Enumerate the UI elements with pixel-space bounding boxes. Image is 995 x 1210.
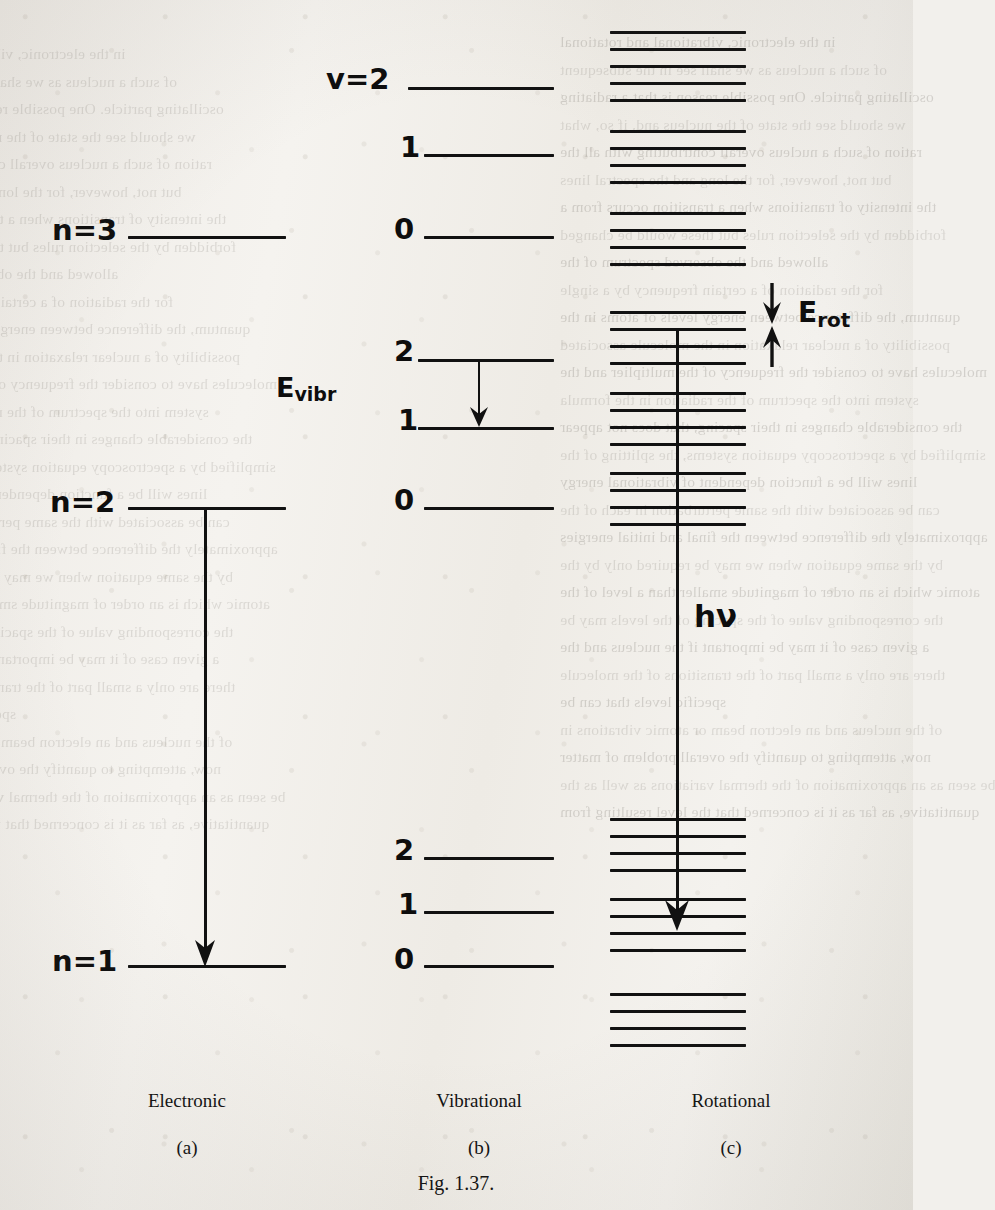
column-caption-rotational: Rotational (636, 1090, 826, 1112)
electronic-transition-arrowhead (192, 938, 218, 968)
vibrational-level-label-v2-top: v=2 (326, 62, 389, 96)
rotational-level-line (610, 993, 746, 996)
evibr-label-subscript: vibr (294, 383, 336, 405)
rotational-level-line (610, 65, 746, 68)
rotational-level-line (610, 246, 746, 249)
column-tag-electronic: (a) (92, 1137, 282, 1159)
column-tag-rotational: (c) (636, 1137, 826, 1159)
rotational-level-line (610, 1027, 746, 1030)
vibrational-level-label-v2-low: 2 (394, 833, 414, 867)
rotational-level-line (610, 932, 746, 935)
photon-energy-label: hν (694, 598, 737, 634)
vibrational-level-label-v2-mid: 2 (394, 334, 414, 368)
rotational-level-line (610, 1010, 746, 1013)
vibrational-level-line-v2-top (408, 87, 554, 90)
column-caption-electronic: Electronic (92, 1090, 282, 1112)
rotational-level-line (610, 99, 746, 102)
erot-up-arrow-icon (760, 325, 784, 367)
erot-label-subscript: rot (817, 308, 850, 332)
rotational-level-line (610, 164, 746, 167)
rotational-level-line (610, 229, 746, 232)
evibr-label: Evibr (276, 372, 336, 405)
rotational-level-line (610, 263, 746, 266)
rotational-level-line (610, 147, 746, 150)
vibrational-level-label-v0-mid: 0 (394, 483, 414, 517)
electronic-level-label-n3: n=3 (52, 213, 117, 247)
rotational-level-line (610, 949, 746, 952)
electronic-level-label-n1: n=1 (52, 944, 117, 978)
vibrational-level-line-v2-low (424, 857, 554, 860)
rotational-level-line (610, 1044, 746, 1047)
rotational-transition-line (676, 330, 679, 922)
vibrational-level-line-v0-low (424, 965, 554, 968)
erot-label: Erot (798, 296, 850, 332)
vibrational-level-label-v1-top: 1 (400, 130, 420, 164)
vibrational-level-line-v2-mid (418, 359, 554, 362)
electronic-transition-line (204, 510, 207, 962)
rotational-level-line (610, 311, 746, 314)
vibrational-transition-arrowhead (468, 406, 490, 428)
vibrational-level-line-v0-top (424, 236, 554, 239)
column-caption-vibrational: Vibrational (384, 1090, 574, 1112)
rotational-level-line (610, 181, 746, 184)
evibr-label-main: E (276, 372, 294, 403)
rotational-level-line (610, 31, 746, 34)
electronic-level-line-n3 (128, 236, 286, 239)
vibrational-level-label-v1-mid: 1 (398, 403, 418, 437)
erot-label-main: E (798, 296, 817, 329)
rotational-transition-arrowhead (662, 898, 692, 932)
electronic-level-line-n2 (128, 507, 286, 510)
rotational-level-line (610, 48, 746, 51)
rotational-level-line (610, 82, 746, 85)
vibrational-level-label-v0-low: 0 (394, 942, 414, 976)
erot-down-arrow-icon (760, 283, 784, 325)
electronic-level-label-n2: n=2 (50, 485, 115, 519)
vibrational-level-line-v0-mid (424, 507, 554, 510)
rotational-level-line (610, 212, 746, 215)
vibrational-level-line-v1-low (424, 911, 554, 914)
vibrational-level-label-v0-top: 0 (394, 212, 414, 246)
rotational-level-line (610, 130, 746, 133)
vibrational-level-line-v1-top (424, 154, 554, 157)
vibrational-level-label-v1-low: 1 (398, 887, 418, 921)
column-tag-vibrational: (b) (384, 1137, 574, 1159)
figure-caption: Fig. 1.37. (356, 1172, 556, 1195)
